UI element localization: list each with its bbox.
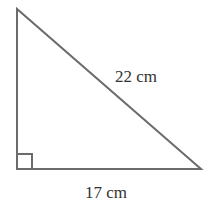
hypotenuse-label: 22 cm — [115, 67, 157, 86]
right-angle-marker — [17, 154, 32, 169]
base-label: 17 cm — [85, 183, 127, 202]
triangle-diagram: 22 cm 17 cm — [0, 0, 215, 208]
right-triangle — [17, 9, 201, 169]
